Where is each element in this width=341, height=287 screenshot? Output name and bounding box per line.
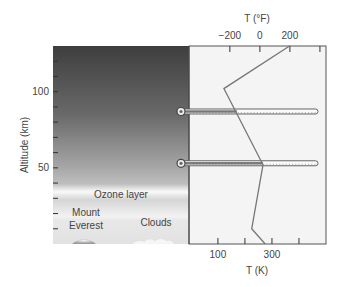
thermometer-1 [177, 107, 318, 115]
thermometer-bulb-core [179, 110, 182, 113]
y-axis-title: Altitude (km) [19, 117, 30, 173]
x-bottom-tick-label: 100 [210, 249, 227, 260]
x-top-tick-label: 0 [257, 30, 263, 41]
x-axis-bottom-title: T (K) [246, 265, 268, 276]
thermometer-2 [177, 159, 318, 167]
y-tick-label: 100 [32, 86, 49, 97]
mount-label: Mount [72, 207, 100, 218]
x-axis-top-title: T (°F) [244, 13, 269, 24]
x-bottom-tick-label: 300 [264, 249, 281, 260]
x-top-tick-label: −200 [219, 30, 242, 41]
everest-label: Everest [69, 220, 103, 231]
y-tick-label: 50 [38, 162, 50, 173]
atmosphere-temperature-diagram: 10050 100300 −2000200 Altitude (km) T (K… [0, 0, 341, 287]
ozone-layer-label: Ozone layer [94, 189, 149, 200]
plot-panel [189, 46, 326, 244]
clouds-label: Clouds [140, 217, 171, 228]
x-top-tick-label: 200 [282, 30, 299, 41]
thermometer-bulb-core [179, 162, 182, 165]
